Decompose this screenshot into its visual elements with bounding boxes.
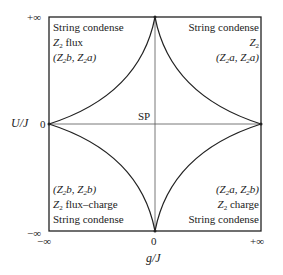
region-bottom-right-line3: String condense <box>188 212 259 227</box>
region-top-right-line1: String condense <box>188 20 259 35</box>
y-tick-middle: 0 <box>40 118 46 130</box>
region-bottom-left-line3: String condense <box>53 212 124 227</box>
region-top-left-line3: (Z2b, Z2a) <box>53 50 124 65</box>
cusp-left <box>48 123 51 126</box>
saddle-point-label: SP <box>138 109 150 124</box>
region-bottom-right: (Z2a, Z2b) Z2 charge String condense <box>188 182 259 227</box>
region-bottom-right-line1: (Z2a, Z2b) <box>188 182 259 197</box>
region-top-right: String condense Z2 (Z2a, Z2a) <box>188 20 259 65</box>
x-tick-middle: 0 <box>151 235 157 247</box>
region-top-left-line2: Z2 flux <box>53 35 124 50</box>
region-top-left-line1: String condense <box>53 20 124 35</box>
region-bottom-left: (Z2b, Z2b) Z2 flux–charge String condens… <box>53 182 124 227</box>
x-tick-left: −∞ <box>37 235 51 247</box>
cusp-top <box>154 16 157 19</box>
region-top-left: String condense Z2 flux (Z2b, Z2a) <box>53 20 124 65</box>
region-top-right-line3: (Z2a, Z2a) <box>188 50 259 65</box>
region-bottom-left-line2: Z2 flux–charge <box>53 197 124 212</box>
x-axis-label: g/J <box>146 252 161 264</box>
region-bottom-left-line1: (Z2b, Z2b) <box>53 182 124 197</box>
y-tick-top: +∞ <box>27 11 41 23</box>
region-bottom-right-line2: Z2 charge <box>188 197 259 212</box>
y-axis-label: U/J <box>11 117 28 129</box>
cusp-right <box>260 123 263 126</box>
cusp-bottom <box>154 230 157 233</box>
region-top-right-line2: Z2 <box>188 35 259 50</box>
x-tick-right: +∞ <box>250 235 264 247</box>
